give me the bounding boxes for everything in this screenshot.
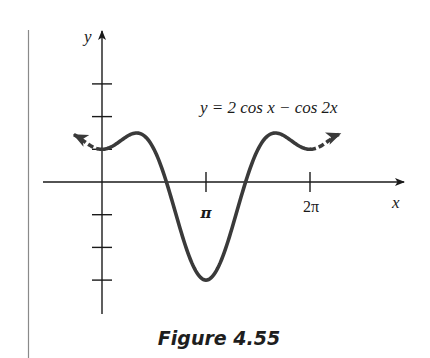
x-tick-label-2pi: 2π — [303, 198, 319, 215]
figure-canvas: π 2π x y y = 2 cos x − cos 2x — [0, 0, 430, 358]
curve-right-extension — [310, 134, 340, 150]
equation-label: y = 2 cos x − cos 2x — [198, 98, 338, 117]
x-tick-label-pi: π — [200, 204, 213, 222]
x-axis-label: x — [391, 193, 400, 212]
y-axis-label: y — [82, 27, 92, 46]
curve-left-extension — [74, 135, 102, 150]
figure-caption: Figure 4.55 — [0, 327, 430, 349]
